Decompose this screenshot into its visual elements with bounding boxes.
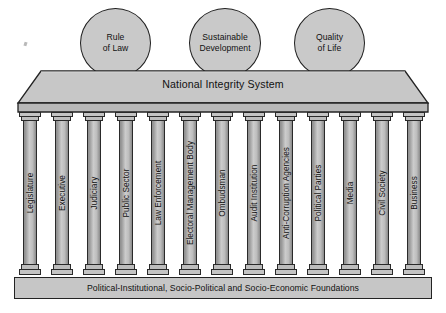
- pillar-law-enforcement: Law Enforcement: [147, 112, 169, 280]
- pillar-label-anti-corruption-agencies: Anti-Corruption Agencies: [282, 147, 291, 239]
- pillar-label-political-parties: Political Parties: [314, 164, 323, 221]
- pillar-shaft: Electoral Management Body: [183, 121, 197, 264]
- pillar-base: [147, 269, 169, 275]
- pillar-audit-institution: Audit Institution: [243, 112, 265, 280]
- pillar-ombudsman: Ombudsman: [211, 112, 233, 280]
- pillar-legislature: Legislature: [19, 112, 41, 280]
- pillar-base: [115, 269, 137, 275]
- roof-shape-icon: [0, 70, 446, 116]
- pillar-executive: Executive: [51, 112, 73, 280]
- pillar-anti-corruption-agencies: Anti-Corruption Agencies: [275, 112, 297, 280]
- national-integrity-system-diagram: Rule of Law Sustainable Development Qual…: [0, 0, 446, 313]
- pillar-electoral-management-body: Electoral Management Body: [179, 112, 201, 280]
- pillar-label-business: Business: [410, 176, 419, 210]
- foundation-label: Political-Institutional, Socio-Political…: [87, 283, 359, 293]
- pillar-label-ombudsman: Ombudsman: [218, 169, 227, 216]
- pillar-label-legislature: Legislature: [26, 172, 35, 213]
- pillar-business: Business: [403, 112, 425, 280]
- goal-rule-of-law-line2: of Law: [103, 43, 129, 54]
- pillar-label-executive: Executive: [58, 175, 67, 211]
- pillar-label-media: Media: [346, 181, 355, 204]
- goal-sustainable-development: Sustainable Development: [189, 8, 261, 78]
- pillar-shaft: Civil Society: [375, 121, 389, 264]
- pillar-label-judiciary: Judiciary: [90, 176, 99, 209]
- pillar-label-civil-society: Civil Society: [378, 170, 387, 215]
- pillars-group: Legislature Executive Judiciary: [0, 112, 446, 280]
- pillar-label-electoral-management-body: Electoral Management Body: [186, 140, 195, 244]
- goal-sustainable-development-line1: Sustainable: [202, 32, 247, 43]
- pillar-base: [275, 269, 297, 275]
- pillar-base: [403, 269, 425, 275]
- pillar-shaft: Ombudsman: [215, 121, 229, 264]
- pillar-base: [243, 269, 265, 275]
- pillar-shaft: Audit Institution: [247, 121, 261, 264]
- roof-label: National Integrity System: [0, 78, 446, 90]
- pillar-media: Media: [339, 112, 361, 280]
- pillar-shaft: Judiciary: [87, 121, 101, 264]
- goal-rule-of-law: Rule of Law: [80, 8, 151, 78]
- pillar-public-sector: Public Sector: [115, 112, 137, 280]
- pillar-base: [179, 269, 201, 275]
- pillar-base: [83, 269, 105, 275]
- pillar-shaft: Business: [407, 121, 421, 264]
- pillar-base: [339, 269, 361, 275]
- pillar-label-law-enforcement: Law Enforcement: [154, 160, 163, 224]
- pillar-label-audit-institution: Audit Institution: [250, 164, 259, 221]
- pillar-political-parties: Political Parties: [307, 112, 329, 280]
- goal-quality-of-life-line1: Quality: [316, 32, 343, 43]
- goal-sustainable-development-line2: Development: [199, 43, 250, 54]
- pillar-label-public-sector: Public Sector: [122, 168, 131, 217]
- pillar-base: [51, 269, 73, 275]
- foundation-block: Political-Institutional, Socio-Political…: [14, 277, 432, 299]
- roof-entablature: [0, 70, 446, 116]
- pillar-shaft: Legislature: [23, 121, 37, 264]
- pillar-base: [371, 269, 393, 275]
- goal-quality-of-life: Quality of Life: [294, 8, 365, 78]
- scan-artifact-speck: [23, 42, 27, 47]
- pillar-civil-society: Civil Society: [371, 112, 393, 280]
- goal-rule-of-law-line1: Rule: [107, 32, 125, 43]
- pillar-shaft: Executive: [55, 121, 69, 264]
- pillar-shaft: Political Parties: [311, 121, 325, 264]
- goal-quality-of-life-line2: of Life: [318, 43, 342, 54]
- pillar-shaft: Law Enforcement: [151, 121, 165, 264]
- pillar-base: [307, 269, 329, 275]
- pillar-shaft: Public Sector: [119, 121, 133, 264]
- pillar-shaft: Anti-Corruption Agencies: [279, 121, 293, 264]
- pillar-base: [19, 269, 41, 275]
- pillar-base: [211, 269, 233, 275]
- pillar-shaft: Media: [343, 121, 357, 264]
- pillar-judiciary: Judiciary: [83, 112, 105, 280]
